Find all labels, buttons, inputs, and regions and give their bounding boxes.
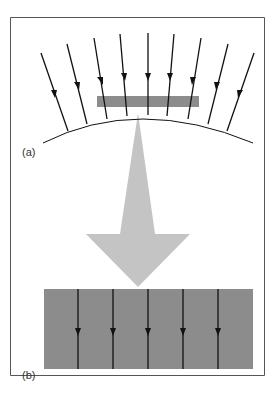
figure-border xyxy=(11,18,265,124)
converging-field-lines xyxy=(41,33,254,131)
earth-surface-arc xyxy=(43,119,253,143)
magnify-arrow xyxy=(86,113,190,287)
panel-label-b: (b) xyxy=(22,369,35,381)
diagram-canvas xyxy=(0,0,277,405)
panel-label-a: (a) xyxy=(22,146,35,158)
